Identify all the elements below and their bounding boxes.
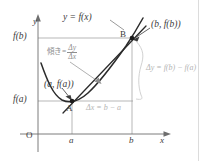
x-axis-arrowhead xyxy=(164,131,172,137)
point-b-coordinate-label: (b, f(b)) xyxy=(151,20,181,30)
slope-label-leader xyxy=(70,62,99,82)
origin-label: O xyxy=(26,131,33,140)
x-axis-label: x xyxy=(160,136,164,145)
fb-value-label: f(b) xyxy=(13,32,27,42)
axes-group xyxy=(20,20,165,152)
x-tick-b-label: b xyxy=(129,136,134,145)
fa-value-label: f(a) xyxy=(13,95,27,105)
curve-equation-label: y = f(x) xyxy=(63,13,92,23)
y-axis-label: y xyxy=(33,17,37,26)
slope-annotation-denominator: Δx xyxy=(67,53,77,61)
point-b-marker xyxy=(130,36,135,41)
point-b-label: B xyxy=(120,30,126,39)
delta-y-annotation: Δy = f(b) − f(a) xyxy=(146,64,196,72)
delta-x-annotation: Δx = b − a xyxy=(86,104,121,112)
slope-annotation-prefix: 傾き xyxy=(47,48,61,56)
slope-annotation-equals: = xyxy=(62,48,66,56)
slope-annotation-fraction: Δy Δx xyxy=(67,44,77,60)
point-a-coordinate-label: (a, f(a)) xyxy=(44,80,74,90)
page-border-rule xyxy=(198,0,199,161)
x-tick-a-label: a xyxy=(69,136,74,145)
delta-y-brace xyxy=(136,41,143,99)
point-a-label: A xyxy=(66,104,73,113)
slope-annotation: 傾き = Δy Δx xyxy=(47,44,77,60)
figure-canvas: y x O f(b) f(a) a b A B y = f(x) (b, f(b… xyxy=(0,0,206,161)
